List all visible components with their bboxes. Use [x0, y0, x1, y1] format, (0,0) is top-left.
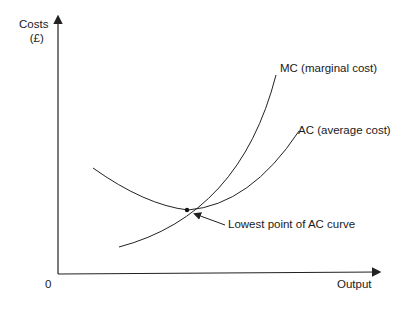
y-axis-label: Costs (£)	[19, 18, 48, 46]
annotation-arrow	[195, 214, 225, 225]
cost-curves-diagram: Costs (£) MC (marginal cost) AC (average…	[0, 0, 413, 309]
y-axis-label-line2: (£)	[19, 32, 48, 46]
x-axis-label: Output	[337, 278, 372, 292]
origin-label: 0	[45, 278, 51, 292]
ac-minimum-point	[185, 208, 189, 212]
lowest-point-annotation: Lowest point of AC curve	[228, 218, 355, 232]
x-axis	[58, 272, 379, 274]
ac-curve	[93, 131, 299, 210]
ac-curve-label: AC (average cost)	[298, 124, 391, 138]
y-axis-label-line1: Costs	[19, 18, 48, 32]
diagram-canvas	[0, 0, 413, 309]
mc-curve-label: MC (marginal cost)	[280, 62, 377, 76]
